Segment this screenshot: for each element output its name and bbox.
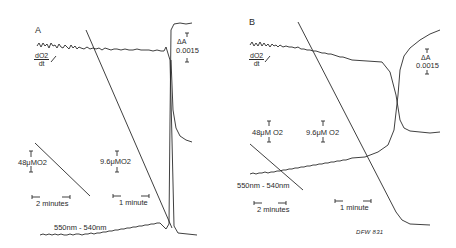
rate-numerator: dO2 xyxy=(34,52,49,60)
panel-b-delta-a-value: 0.0015 xyxy=(416,62,439,70)
panel-a-rate-label: dO2dt xyxy=(34,52,49,68)
panel-b-letter: B xyxy=(249,18,255,27)
panel-a-time-scale-small: 1 minute xyxy=(119,199,148,207)
panel-a-letter: A xyxy=(35,26,41,35)
rate-denominator: dt xyxy=(249,60,264,67)
panel-b-rate-pointer xyxy=(265,56,270,62)
figure-traces xyxy=(0,0,456,248)
panel-a-rate-pointer xyxy=(51,56,56,62)
panel-b-delta-a-label: ΔA xyxy=(421,54,430,61)
panel-b-wavelength-label: 550nm - 540nm xyxy=(237,182,290,190)
author-signature: DFW 831 xyxy=(356,229,383,235)
panel-b-oxygen-trace xyxy=(298,22,430,225)
panel-a-decay-trace xyxy=(171,60,192,142)
panel-a-o2-scale-large: 48μMO2 xyxy=(18,159,47,167)
panel-a-wavelength-label: 550nm - 540nm xyxy=(54,224,107,232)
panel-a-o2-scale-small: 9.6μMO2 xyxy=(100,158,131,166)
panel-b-rate-label: dO2dt xyxy=(249,52,264,68)
panel-a-calibration-slope xyxy=(35,143,90,196)
rate-numerator: dO2 xyxy=(249,52,264,60)
panel-b-rate-trace xyxy=(250,42,440,133)
panel-a-time-scale-large: 2 minutes xyxy=(36,200,69,208)
panel-b-time-scale-small: 1 minute xyxy=(340,204,369,212)
panel-b-o2-scale-large: 48μM O2 xyxy=(252,129,283,137)
rate-denominator: dt xyxy=(34,60,49,67)
panel-a-delta-a-value: 0.0015 xyxy=(176,47,199,55)
panel-b-time-scale-large: 2 minutes xyxy=(257,206,290,214)
panel-a-delta-a-label: ΔA xyxy=(177,38,186,45)
panel-b-o2-scale-small: 9.6μM O2 xyxy=(306,129,339,137)
panel-b-absorbance-trace xyxy=(250,30,440,174)
